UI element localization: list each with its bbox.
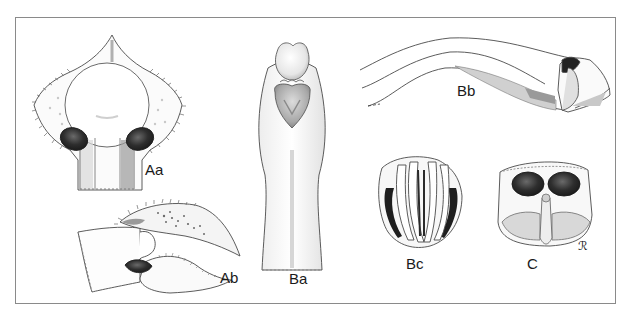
panel-ba-drawing bbox=[259, 43, 325, 270]
figure-plate: Aa Ab Ba Bb Bc C ℛ bbox=[0, 0, 636, 320]
panel-bc-drawing bbox=[379, 157, 462, 248]
panel-label-c: C bbox=[527, 256, 538, 271]
panel-label-ab: Ab bbox=[220, 270, 238, 285]
panel-label-ba: Ba bbox=[289, 271, 307, 286]
panel-label-bc: Bc bbox=[406, 256, 424, 271]
panel-label-bb: Bb bbox=[457, 83, 475, 98]
panel-label-aa: Aa bbox=[145, 162, 163, 177]
artist-signature: ℛ bbox=[578, 240, 588, 252]
panel-ab-drawing bbox=[78, 199, 240, 293]
illustration-canvas bbox=[0, 0, 636, 320]
panel-bb-drawing bbox=[360, 38, 610, 112]
panel-c-drawing bbox=[498, 162, 592, 246]
